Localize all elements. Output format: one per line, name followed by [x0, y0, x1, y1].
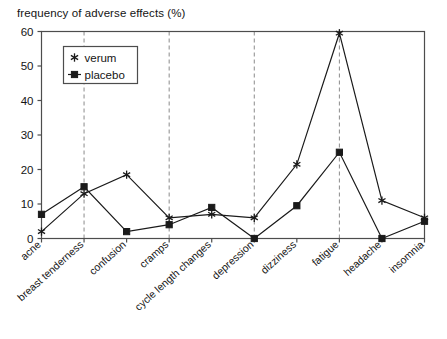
- x-tick-label-depression: depression: [209, 238, 255, 281]
- series-line-placebo: [42, 152, 425, 238]
- data-point-placebo-cycle-length-changes: [209, 204, 215, 210]
- data-point-placebo-breast-tenderness: [81, 184, 87, 190]
- data-point-placebo-confusion: [124, 229, 130, 235]
- x-tick-label-fatigue: fatigue: [309, 238, 341, 268]
- data-point-verum-headache: [378, 196, 385, 204]
- y-tick-label: 60: [21, 26, 34, 38]
- data-point-placebo-acne: [38, 211, 44, 217]
- x-tick-label-insomnia: insomnia: [387, 238, 426, 275]
- x-tick-label-acne: acne: [18, 238, 43, 262]
- y-tick-label: 40: [21, 95, 34, 107]
- x-tick-label-confusion: confusion: [87, 238, 129, 277]
- data-point-verum-fatigue: [336, 29, 343, 37]
- x-tick-label-cramps: cramps: [137, 238, 171, 270]
- legend-label-verum: verum: [85, 52, 117, 64]
- data-point-placebo-insomnia: [421, 218, 427, 224]
- data-point-placebo-cramps: [166, 222, 172, 228]
- y-tick-label: 30: [21, 129, 34, 141]
- data-point-placebo-headache: [379, 235, 385, 241]
- y-tick-label: 10: [21, 198, 34, 210]
- data-point-placebo-depression: [251, 235, 257, 241]
- y-axis-tick-labels: 0102030405060: [21, 26, 34, 245]
- y-tick-label: 20: [21, 164, 34, 176]
- x-tick-label-dizziness: dizziness: [258, 238, 298, 276]
- data-point-placebo-fatigue: [336, 149, 342, 155]
- x-tick-label-headache: headache: [341, 238, 383, 278]
- x-tick-label-cycle-length-changes: cycle length changes: [132, 238, 213, 313]
- chart-figure: frequency of adverse effects (%) 0102030…: [0, 0, 447, 339]
- x-axis-tick-labels: acnebreast tendernessconfusioncrampscycl…: [15, 238, 426, 313]
- data-point-placebo-dizziness: [294, 203, 300, 209]
- legend: verumplacebo: [64, 47, 138, 84]
- y-tick-label: 50: [21, 60, 34, 72]
- x-axis-ticks: [42, 239, 425, 243]
- plot-area: 0102030405060 acnebreast tendernessconfu…: [0, 0, 447, 339]
- legend-label-placebo: placebo: [85, 69, 125, 81]
- line-chart-svg: 0102030405060 acnebreast tendernessconfu…: [0, 0, 447, 339]
